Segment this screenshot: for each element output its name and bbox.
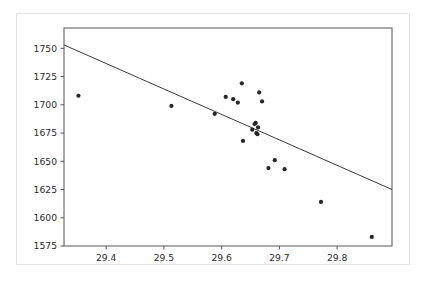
data-point — [224, 95, 228, 99]
data-point — [236, 100, 240, 104]
data-point — [241, 139, 245, 143]
y-tick-label: 1700 — [34, 99, 58, 110]
fit-line — [64, 45, 392, 190]
data-point — [255, 132, 259, 136]
data-point — [76, 94, 80, 98]
regression-line — [64, 45, 392, 190]
x-tick-label: 29.5 — [154, 252, 175, 263]
axes-frame — [64, 28, 392, 246]
y-tick-label: 1675 — [34, 127, 58, 138]
data-points — [76, 81, 374, 239]
data-point — [260, 99, 264, 103]
data-point — [273, 158, 277, 162]
x-axis-ticks: 29.429.529.629.729.8 — [96, 246, 348, 263]
data-point — [256, 125, 260, 129]
y-tick-label: 1750 — [34, 43, 58, 54]
y-axis-ticks: 15751600162516501675170017251750 — [34, 43, 64, 252]
data-point — [282, 167, 286, 171]
y-tick-label: 1600 — [34, 212, 58, 223]
data-point — [213, 112, 217, 116]
y-tick-label: 1575 — [34, 240, 58, 251]
x-tick-label: 29.4 — [96, 252, 117, 263]
x-tick-label: 29.6 — [211, 252, 232, 263]
data-point — [319, 200, 323, 204]
data-point — [257, 90, 261, 94]
y-tick-label: 1725 — [34, 71, 58, 82]
figure-canvas: 29.429.529.629.729.8 1575160016251650167… — [0, 0, 427, 286]
y-tick-label: 1650 — [34, 156, 58, 167]
scatter-plot: 29.429.529.629.729.8 1575160016251650167… — [0, 0, 427, 286]
data-point — [254, 121, 258, 125]
data-point — [370, 235, 374, 239]
x-tick-label: 29.7 — [269, 252, 290, 263]
data-point — [231, 97, 235, 101]
data-point — [266, 166, 270, 170]
data-point — [240, 81, 244, 85]
data-point — [250, 128, 254, 132]
data-point — [169, 104, 173, 108]
x-tick-label: 29.8 — [327, 252, 348, 263]
y-tick-label: 1625 — [34, 184, 58, 195]
